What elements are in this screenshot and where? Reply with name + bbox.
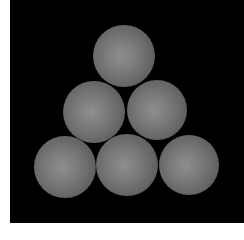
sphere	[93, 25, 155, 87]
sphere	[34, 136, 96, 198]
sphere	[63, 81, 125, 143]
sphere	[127, 80, 187, 140]
sphere	[96, 134, 158, 196]
sphere	[159, 135, 219, 195]
